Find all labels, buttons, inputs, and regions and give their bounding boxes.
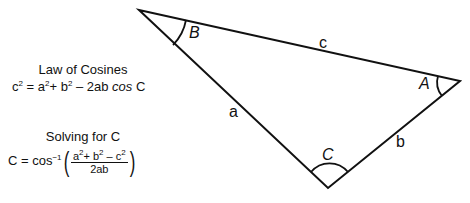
solving-title: Solving for C xyxy=(8,129,158,144)
angle-arc-b xyxy=(173,20,186,45)
fraction-numerator: a2+ b2 – c2 xyxy=(71,150,128,163)
eq-a: = a xyxy=(23,79,45,94)
side-label-c: c xyxy=(319,34,327,52)
angle-arc-a xyxy=(437,76,442,96)
angle-label-b: B xyxy=(189,24,200,42)
solving-equation: C = cos−1(a2+ b2 – c22ab) xyxy=(8,146,137,178)
angle-arc-c xyxy=(311,163,348,172)
paren-open: ( xyxy=(63,146,69,178)
law-of-cosines-equation: c2 = a2+ b2 – 2ab cos C xyxy=(12,79,145,94)
side-label-b: b xyxy=(396,133,405,151)
triangle-outline xyxy=(139,10,460,188)
num-c: – c xyxy=(104,150,122,162)
num-b: + b xyxy=(83,150,99,162)
eq-tail: – 2ab xyxy=(72,79,112,94)
eq-cos: cos xyxy=(112,79,132,94)
paren-close: ) xyxy=(130,146,136,178)
side-label-a: a xyxy=(229,103,238,121)
solve-inv-exp: −1 xyxy=(52,153,61,162)
fraction-denominator: 2ab xyxy=(71,163,128,175)
law-of-cosines-title: Law of Cosines xyxy=(8,62,158,77)
angle-label-a: A xyxy=(419,75,430,93)
eq-b: + b xyxy=(49,79,67,94)
num-c-exp: 2 xyxy=(121,148,125,157)
fraction: a2+ b2 – c22ab xyxy=(71,150,128,175)
solve-lhs: C = cos xyxy=(8,153,52,168)
angle-label-c: C xyxy=(322,146,334,164)
eq-angle: C xyxy=(132,79,145,94)
